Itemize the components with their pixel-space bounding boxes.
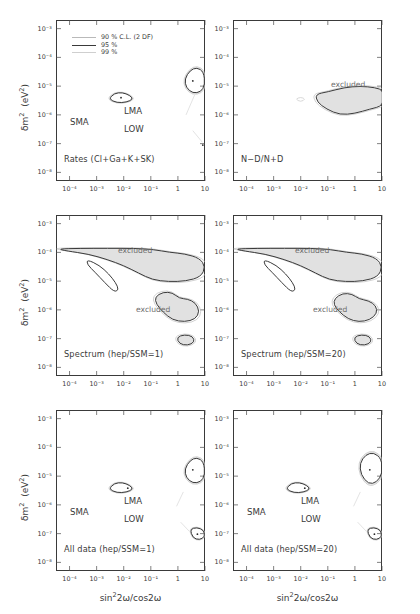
- y-tick-label: 10⁻⁵: [38, 472, 52, 480]
- y-tick-label: 10⁻⁷: [215, 335, 229, 343]
- region-label-low: LOW: [124, 124, 144, 134]
- y-tick-label: 10⁻⁸: [215, 558, 229, 566]
- y-tick-label: 10⁻⁴: [38, 53, 52, 61]
- y-tick-label: 10⁻⁸: [215, 168, 229, 176]
- y-tick-label: 10⁻³: [215, 25, 229, 33]
- y-tick-label: 10⁻⁴: [38, 248, 52, 256]
- plot-panel-alldata-1: All data (hep/SSM=1)SMALMALOW: [56, 410, 205, 571]
- x-tick-label: 10⁻¹: [321, 575, 335, 583]
- y-tick-label: 10⁻³: [38, 220, 52, 228]
- x-tick-label: 10⁻⁴: [62, 380, 76, 388]
- excluded-label-top: excluded: [118, 246, 152, 255]
- x-tick-label: 10: [378, 575, 386, 583]
- x-tick-label: 10: [201, 575, 209, 583]
- figure-canvas: Rates (Cl+Ga+K+SK)SMALMALOW90 % C.L. (2 …: [0, 0, 420, 614]
- x-tick-label: 1: [353, 185, 357, 193]
- x-tick-label: 10⁻³: [266, 185, 280, 193]
- y-tick-label: 10⁻⁷: [38, 335, 52, 343]
- x-tick-label: 10⁻¹: [321, 185, 335, 193]
- region-label-lma: LMA: [124, 496, 142, 506]
- x-axis-title: sin22ω/cos2ω: [277, 593, 339, 603]
- region-label-low: LOW: [301, 514, 321, 524]
- region-label-lma: LMA: [124, 106, 142, 116]
- x-tick-label: 10⁻¹: [144, 380, 158, 388]
- plot-panel-alldata-20: All data (hep/SSM=20)SMALMALOW: [233, 410, 382, 571]
- x-tick-label: 10⁻³: [266, 575, 280, 583]
- x-tick-label: 10⁻¹: [144, 575, 158, 583]
- region-label-sma: SMA: [70, 507, 89, 517]
- excluded-label-mid: excluded: [313, 305, 347, 314]
- y-tick-label: 10⁻⁵: [215, 277, 229, 285]
- panel-label-rates: Rates (Cl+Ga+K+SK): [64, 154, 155, 164]
- y-tick-label: 10⁻⁵: [38, 82, 52, 90]
- x-tick-label: 10⁻²: [293, 575, 307, 583]
- x-tick-label: 10⁻²: [116, 185, 130, 193]
- y-tick-label: 10⁻⁶: [38, 111, 52, 119]
- legend-swatch-icon: [72, 52, 96, 53]
- y-tick-label: 10⁻⁸: [38, 168, 52, 176]
- x-tick-label: 10⁻⁴: [239, 380, 253, 388]
- y-tick-label: 10⁻³: [215, 415, 229, 423]
- excluded-label-top: excluded: [295, 246, 329, 255]
- x-tick-label: 10: [201, 380, 209, 388]
- y-tick-label: 10⁻⁶: [215, 111, 229, 119]
- y-axis-title: δm2 (eV2): [20, 83, 30, 130]
- y-tick-label: 10⁻⁷: [215, 140, 229, 148]
- confidence-legend: 90 % C.L. (2 DF)95 %99 %: [72, 34, 153, 57]
- y-tick-label: 10⁻⁵: [215, 82, 229, 90]
- panel-label-spectrum-20: Spectrum (hep/SSM=20): [241, 349, 346, 359]
- x-tick-label: 10⁻⁴: [62, 575, 76, 583]
- y-tick-label: 10⁻⁷: [38, 530, 52, 538]
- y-tick-label: 10⁻⁸: [215, 363, 229, 371]
- region-label-sma: SMA: [70, 117, 89, 127]
- y-tick-label: 10⁻⁴: [38, 443, 52, 451]
- x-tick-label: 10⁻³: [89, 380, 103, 388]
- legend-swatch-icon: [72, 45, 96, 46]
- plot-panel-spectrum-20: Spectrum (hep/SSM=20)excludedexcluded: [233, 215, 382, 376]
- x-tick-label: 1: [353, 575, 357, 583]
- plot-panel-spectrum-1: Spectrum (hep/SSM=1)excludedexcluded: [56, 215, 205, 376]
- y-tick-label: 10⁻⁶: [38, 501, 52, 509]
- x-tick-label: 10⁻³: [89, 575, 103, 583]
- x-tick-label: 10⁻¹: [321, 380, 335, 388]
- y-tick-label: 10⁻³: [38, 25, 52, 33]
- x-tick-label: 10⁻³: [89, 185, 103, 193]
- legend-item-2: 99 %: [72, 49, 153, 57]
- y-tick-label: 10⁻⁸: [38, 558, 52, 566]
- y-axis-title: δm2 (eV2): [20, 278, 30, 325]
- y-tick-label: 10⁻⁷: [215, 530, 229, 538]
- panel-label-alldata-20: All data (hep/SSM=20): [241, 544, 337, 554]
- legend-item-label: 99 %: [101, 49, 117, 57]
- region-label-low: LOW: [124, 514, 144, 524]
- panel-label-nd-ratio: N−D/N+D: [241, 154, 283, 164]
- y-tick-label: 10⁻⁵: [215, 472, 229, 480]
- y-tick-label: 10⁻⁷: [38, 140, 52, 148]
- y-tick-label: 10⁻⁵: [38, 277, 52, 285]
- x-tick-label: 10: [378, 380, 386, 388]
- x-tick-label: 10⁻²: [293, 185, 307, 193]
- plot-panel-nd-ratio: N−D/N+Dexcluded: [233, 20, 382, 181]
- y-tick-label: 10⁻⁴: [215, 443, 229, 451]
- x-tick-label: 10⁻⁴: [239, 575, 253, 583]
- y-tick-label: 10⁻⁶: [215, 306, 229, 314]
- y-tick-label: 10⁻⁴: [215, 53, 229, 61]
- x-tick-label: 10⁻²: [116, 380, 130, 388]
- panel-label-spectrum-1: Spectrum (hep/SSM=1): [64, 349, 163, 359]
- x-axis-title: sin22ω/cos2ω: [100, 593, 162, 603]
- y-axis-title: δm2 (eV2): [20, 473, 30, 520]
- x-tick-label: 10⁻³: [266, 380, 280, 388]
- y-tick-label: 10⁻³: [38, 415, 52, 423]
- x-tick-label: 10⁻²: [116, 575, 130, 583]
- x-tick-label: 1: [176, 380, 180, 388]
- plot-panel-rates: Rates (Cl+Ga+K+SK)SMALMALOW90 % C.L. (2 …: [56, 20, 205, 181]
- y-tick-label: 10⁻⁸: [38, 363, 52, 371]
- x-tick-label: 10⁻¹: [144, 185, 158, 193]
- x-tick-label: 1: [176, 185, 180, 193]
- y-tick-label: 10⁻⁴: [215, 248, 229, 256]
- y-tick-label: 10⁻⁶: [215, 501, 229, 509]
- x-tick-label: 1: [176, 575, 180, 583]
- excluded-label-mid: excluded: [136, 305, 170, 314]
- x-tick-label: 10: [378, 185, 386, 193]
- x-tick-label: 10⁻⁴: [62, 185, 76, 193]
- x-tick-label: 10: [201, 185, 209, 193]
